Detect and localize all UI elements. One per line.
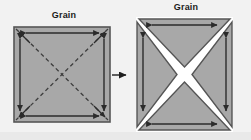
diagram-svg xyxy=(0,0,251,140)
left-fabric-square xyxy=(14,27,110,122)
diagram-canvas: Grain Grain xyxy=(0,0,251,140)
bottom-band xyxy=(0,132,251,140)
right-fabric-square xyxy=(136,17,233,132)
